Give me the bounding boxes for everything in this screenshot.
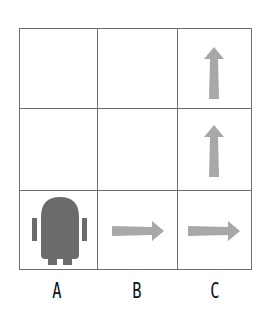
grid-line (177, 29, 178, 269)
grid-line (97, 29, 98, 269)
arrow-right-icon (186, 219, 242, 243)
robot-icon (32, 195, 88, 267)
arrow-up-icon (202, 45, 226, 101)
grid-line (20, 190, 251, 191)
path-grid (19, 28, 252, 270)
column-label-c: C (205, 278, 226, 303)
column-label-a: A (47, 278, 68, 303)
column-label-b: B (127, 278, 148, 303)
arrow-up-icon (202, 123, 226, 179)
grid-line (20, 108, 251, 109)
arrow-right-icon (110, 219, 166, 243)
